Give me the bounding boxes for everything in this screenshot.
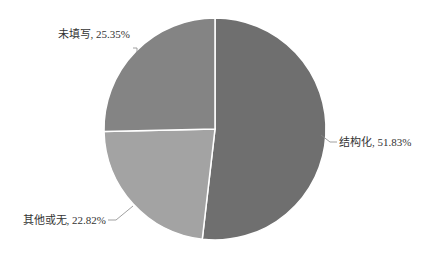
slice-structured xyxy=(202,18,326,240)
pie-chart: 未填写, 25.35% 结构化, 51.83% 其他或无, 22.82% xyxy=(0,0,435,257)
label-other: 其他或无, 22.82% xyxy=(23,214,106,226)
label-structured: 结构化, 51.83% xyxy=(339,135,411,148)
label-unfilled: 未填写, 25.35% xyxy=(58,27,130,40)
slice-other xyxy=(104,129,215,239)
leader-line-other xyxy=(108,206,133,220)
